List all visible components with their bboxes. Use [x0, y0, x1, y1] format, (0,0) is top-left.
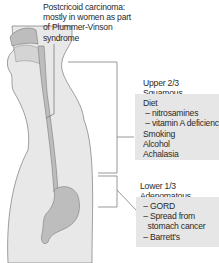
upper-item: – nitrosamines	[143, 108, 219, 118]
upper-risk-box: Diet – nitrosamines – vitamin A deficien…	[135, 94, 219, 160]
postcricoid-line-4: syndrome	[43, 33, 131, 43]
upper-item: Smoking	[143, 129, 219, 139]
postcricoid-line-1: Postcricoid carcinoma:	[43, 2, 131, 12]
postcricoid-line-2: mostly in women as part	[43, 12, 131, 22]
upper-item: Alcohol	[143, 139, 219, 149]
lower-item: – Spread from	[141, 211, 205, 221]
lower-risk-box: – GORD – Spread from stomach cancer – Ba…	[136, 197, 219, 247]
upper-item: – vitamin A deficiency	[143, 118, 219, 128]
lower-item: – GORD	[141, 201, 205, 211]
postcricoid-line-3: of Plummer-Vinson	[43, 22, 131, 32]
lower-item: stomach cancer	[141, 221, 205, 231]
upper-item: Diet	[143, 98, 219, 108]
lower-item: – Barrett's	[141, 232, 205, 242]
postcricoid-annotation: Postcricoid carcinoma: mostly in women a…	[43, 2, 131, 43]
upper-item: Achalasia	[143, 149, 219, 159]
